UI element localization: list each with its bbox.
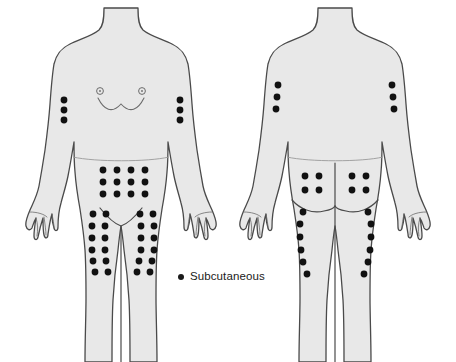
injection-dot (150, 211, 157, 218)
injection-dot (90, 258, 97, 265)
injection-dot (349, 173, 356, 180)
injection-dot (89, 235, 96, 242)
injection-dot (128, 167, 135, 174)
injection-dot (316, 187, 323, 194)
injection-dot (103, 211, 110, 218)
injection-dot (298, 247, 305, 254)
injection-dot (142, 191, 149, 198)
injection-dot (363, 173, 370, 180)
injection-dot (361, 271, 368, 278)
injection-dot (275, 82, 282, 89)
injection-dot (177, 117, 184, 124)
injection-dot (390, 94, 397, 101)
body-map-diagram (0, 0, 456, 362)
injection-dot (368, 221, 375, 228)
legend: Subcutaneous (178, 271, 265, 283)
injection-dot (138, 247, 145, 254)
injection-dot (368, 234, 375, 241)
injection-dot (149, 258, 156, 265)
injection-dot (137, 211, 144, 218)
injection-dot (363, 187, 370, 194)
injection-dot (114, 191, 121, 198)
injection-dot (138, 235, 145, 242)
injection-dot (177, 97, 184, 104)
injection-dot (365, 209, 372, 216)
injection-dot (151, 223, 158, 230)
injection-dot (136, 258, 143, 265)
injection-dot (114, 167, 121, 174)
injection-dot (316, 173, 323, 180)
injection-dot (297, 234, 304, 241)
injection-dot (128, 179, 135, 186)
injection-dot (61, 117, 68, 124)
injection-dot (367, 247, 374, 254)
injection-dot (391, 106, 398, 113)
injection-dot (349, 187, 356, 194)
injection-dot (100, 191, 107, 198)
injection-dot (302, 173, 309, 180)
injection-dot (177, 107, 184, 114)
injection-dot (134, 269, 141, 276)
injection-dot (151, 247, 158, 254)
injection-dot (300, 259, 307, 266)
injection-dot (302, 187, 309, 194)
injection-dot (90, 211, 97, 218)
injection-dot (89, 247, 96, 254)
legend-dot-icon (178, 274, 184, 280)
injection-dot (147, 269, 154, 276)
injection-dot (102, 247, 109, 254)
injection-dot (61, 107, 68, 114)
injection-dot (92, 269, 99, 276)
injection-dot (61, 97, 68, 104)
injection-dot (300, 209, 307, 216)
injection-dot (273, 106, 280, 113)
injection-dot (114, 179, 121, 186)
injection-dot (128, 191, 135, 198)
injection-dot (100, 167, 107, 174)
injection-dot (151, 235, 158, 242)
injection-dot (102, 235, 109, 242)
injection-dot (100, 179, 107, 186)
injection-dot (304, 271, 311, 278)
injection-dot (389, 82, 396, 89)
injection-dot (365, 259, 372, 266)
injection-dot (297, 221, 304, 228)
injection-dot (142, 179, 149, 186)
injection-dot (105, 269, 112, 276)
posterior-figure (240, 8, 431, 362)
injection-dot (138, 223, 145, 230)
injection-dot (274, 94, 281, 101)
injection-dot (103, 258, 110, 265)
injection-dot (102, 223, 109, 230)
injection-dot (142, 167, 149, 174)
anterior-figure (26, 8, 217, 362)
legend-label: Subcutaneous (190, 271, 265, 283)
injection-dot (89, 223, 96, 230)
